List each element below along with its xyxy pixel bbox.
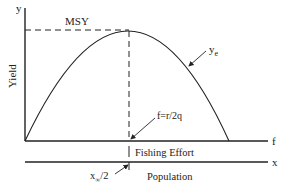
- y-axis-symbol: y: [16, 2, 22, 14]
- yield-curve: [25, 31, 229, 141]
- msy-label: MSY: [65, 15, 89, 27]
- curve-label: ye: [209, 43, 219, 58]
- half-carrying-capacity-label: x∞/2: [90, 170, 108, 184]
- population-axis-label: Population: [147, 171, 193, 182]
- optimal-effort-label: f=r/2q: [157, 110, 182, 121]
- yield-effort-diagram: y Yield f Fishing Effort x Population MS…: [0, 0, 288, 190]
- optimal-effort-arrow: [131, 118, 155, 139]
- half-carrying-arrow: [115, 165, 128, 174]
- y-axis-label: Yield: [6, 64, 18, 88]
- effort-axis-symbol: f: [272, 135, 276, 147]
- population-axis-symbol: x: [272, 156, 278, 168]
- effort-axis-label: Fishing Effort: [135, 147, 194, 158]
- curve-label-arrow: [189, 51, 206, 66]
